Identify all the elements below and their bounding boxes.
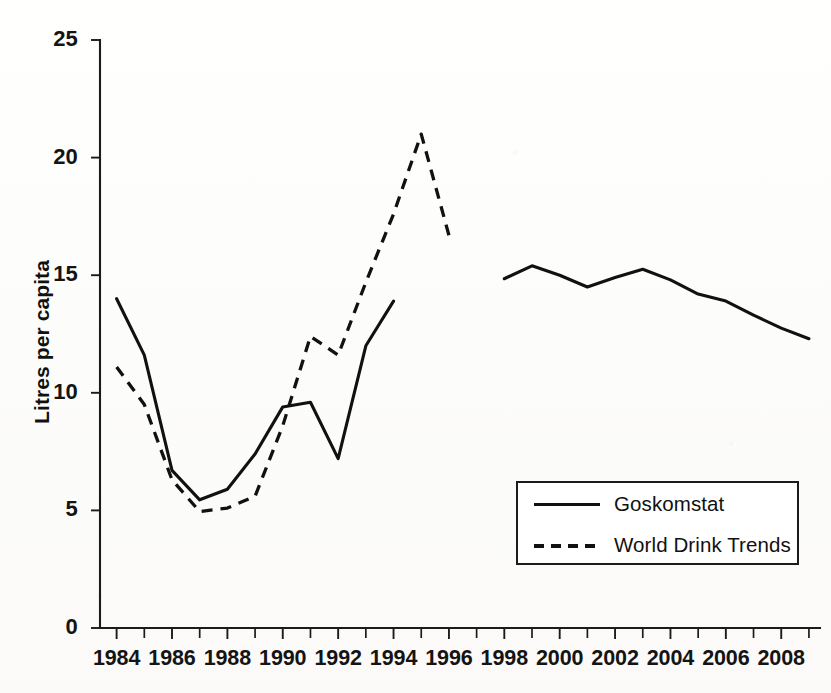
x-tick-label-2002: 2002 [585, 646, 645, 671]
x-tick-label-1992: 1992 [308, 646, 368, 671]
x-tick-label-1988: 1988 [197, 646, 257, 671]
legend-entry-goskomstat: Goskomstat [518, 483, 797, 525]
x-tick-label-2004: 2004 [640, 646, 700, 671]
x-tick-label-2008: 2008 [751, 646, 811, 671]
legend-swatch-dashed-line-icon [534, 538, 600, 552]
y-tick-label-0: 0 [36, 614, 78, 640]
x-tick-label-2000: 2000 [530, 646, 590, 671]
x-tick-label-1990: 1990 [253, 646, 313, 671]
x-tick-label-2006: 2006 [696, 646, 756, 671]
x-tick-label-1986: 1986 [142, 646, 202, 671]
series-goskomstat-segment-0 [117, 299, 394, 500]
legend-label-goskomstat: Goskomstat [614, 492, 724, 516]
series-world-drink-trends-segment-0 [117, 134, 449, 512]
legend-entry-world-drink-trends: World Drink Trends [518, 524, 797, 566]
y-tick-label-15: 15 [36, 261, 78, 287]
x-tick-label-1998: 1998 [474, 646, 534, 671]
y-tick-label-5: 5 [36, 496, 78, 522]
y-tick-label-25: 25 [36, 26, 78, 52]
x-tick-label-1984: 1984 [87, 646, 147, 671]
x-tick-label-1994: 1994 [364, 646, 424, 671]
legend-swatch-solid-line-icon [534, 497, 600, 511]
y-tick-label-20: 20 [36, 144, 78, 170]
data-series [117, 134, 809, 512]
plot-canvas [0, 0, 831, 693]
legend-label-world-drink-trends: World Drink Trends [614, 533, 791, 557]
y-tick-label-10: 10 [36, 379, 78, 405]
x-tick-label-1996: 1996 [419, 646, 479, 671]
series-goskomstat-segment-1 [504, 266, 809, 339]
legend: Goskomstat World Drink Trends [516, 481, 799, 565]
chart-figure: Litres per capita 0510152025 19841986198… [0, 0, 831, 693]
